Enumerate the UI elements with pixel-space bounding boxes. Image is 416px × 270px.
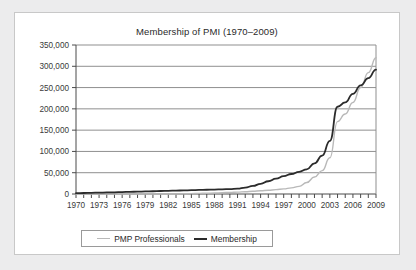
y-axis-tick-label: 0	[64, 190, 69, 199]
x-axis-tick-label: 2006	[344, 201, 363, 210]
x-axis-tick-label: 1997	[275, 201, 294, 210]
x-axis-tick-label: 2009	[367, 201, 386, 210]
y-axis-tick-label: 150,000	[39, 126, 69, 135]
y-axis-tick-label: 50,000	[44, 169, 69, 178]
chart-legend: PMP Professionals Membership	[81, 230, 273, 247]
y-axis-tick-label: 350,000	[39, 41, 69, 50]
y-axis-tick-label: 100,000	[39, 147, 69, 156]
x-axis-tick-label: 1979	[136, 201, 155, 210]
y-axis-tick-label: 300,000	[39, 62, 69, 71]
y-axis-labels-group: 050,000100,000150,000200,000250,000300,0…	[39, 41, 69, 199]
legend-label-membership: Membership	[211, 234, 257, 244]
chart-plot-area: 050,000100,000150,000200,000250,000300,0…	[15, 13, 401, 256]
x-axis-tick-label: 1982	[159, 201, 178, 210]
data-series-group	[76, 58, 376, 194]
x-axis-tick-label: 1988	[205, 201, 224, 210]
x-axis-tick-label: 1970	[67, 201, 86, 210]
x-axis-tick-label: 1985	[182, 201, 201, 210]
legend-item-pmp-professionals: PMP Professionals	[97, 234, 185, 244]
line-chart-svg: 050,000100,000150,000200,000250,000300,0…	[15, 13, 401, 256]
legend-item-membership: Membership	[194, 234, 257, 244]
series-line-pmp-professionals	[76, 58, 376, 194]
x-axis-labels-group: 1970197319761979198219851988199119941997…	[67, 201, 386, 210]
legend-swatch-membership-line-icon	[194, 238, 207, 240]
x-axis-tick-label: 1994	[252, 201, 271, 210]
legend-swatch-pmp-line-icon	[97, 238, 110, 239]
x-axis-tick-label: 1976	[113, 201, 132, 210]
figure-card: Membership of PMI (1970–2009) 050,000100…	[14, 12, 400, 255]
x-axis-tick-label: 2000	[298, 201, 317, 210]
legend-label-pmp-professionals: PMP Professionals	[114, 234, 185, 244]
y-axis-tick-label: 250,000	[39, 84, 69, 93]
gridlines-group	[76, 45, 376, 173]
series-line-membership	[76, 70, 376, 193]
y-axis-tick-label: 200,000	[39, 105, 69, 114]
x-axis-tick-label: 2003	[321, 201, 340, 210]
x-axis-tick-label: 1991	[228, 201, 247, 210]
y-axis-ticks-group	[72, 45, 76, 194]
x-axis-tick-label: 1973	[90, 201, 109, 210]
